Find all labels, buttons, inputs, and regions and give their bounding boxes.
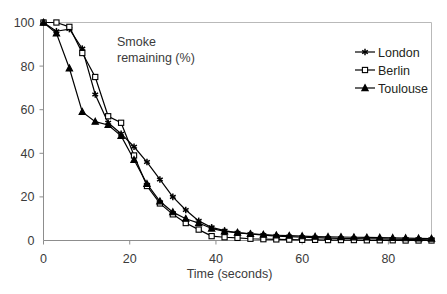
marker-berlin bbox=[80, 50, 85, 55]
legend-marker-berlin bbox=[362, 67, 367, 72]
x-axis-title: Time (seconds) bbox=[187, 267, 273, 281]
marker-toulouse bbox=[183, 215, 189, 221]
marker-toulouse bbox=[92, 118, 98, 124]
marker-berlin bbox=[196, 227, 201, 232]
series-line-london bbox=[44, 23, 432, 240]
x-tick-label: 0 bbox=[40, 252, 47, 266]
y-tick-label: 40 bbox=[21, 147, 35, 161]
y-tick-label: 60 bbox=[21, 103, 35, 117]
marker-berlin bbox=[106, 114, 111, 119]
y-tick-label: 80 bbox=[21, 60, 35, 74]
series-line-toulouse bbox=[44, 23, 432, 239]
marker-berlin bbox=[235, 235, 240, 240]
legend-label-london: London bbox=[378, 46, 420, 60]
y-tick-label: 20 bbox=[21, 190, 35, 204]
x-tick-label: 60 bbox=[295, 252, 309, 266]
chart-canvas: 020406080100020406080Time (seconds)Smoke… bbox=[0, 0, 447, 294]
marker-toulouse bbox=[79, 108, 85, 114]
x-tick-label: 20 bbox=[123, 252, 137, 266]
marker-berlin bbox=[54, 20, 59, 25]
series-line-berlin bbox=[44, 23, 432, 241]
smoke-remaining-line-chart: 020406080100020406080Time (seconds)Smoke… bbox=[0, 0, 447, 294]
marker-berlin bbox=[119, 120, 124, 125]
x-tick-label: 80 bbox=[381, 252, 395, 266]
y-tick-label: 100 bbox=[14, 16, 35, 30]
legend-label-toulouse: Toulouse bbox=[378, 82, 428, 96]
plot-frame bbox=[44, 23, 432, 241]
plot-title-line: remaining (%) bbox=[117, 51, 195, 65]
marker-london bbox=[92, 91, 98, 98]
marker-berlin bbox=[222, 235, 227, 240]
legend-label-berlin: Berlin bbox=[378, 64, 410, 78]
x-tick-label: 40 bbox=[209, 252, 223, 266]
marker-toulouse bbox=[66, 65, 72, 71]
marker-berlin bbox=[93, 74, 98, 79]
y-tick-label: 0 bbox=[28, 234, 35, 248]
plot-title-line: Smoke bbox=[117, 35, 156, 49]
marker-berlin bbox=[67, 24, 72, 29]
marker-berlin bbox=[209, 234, 214, 239]
